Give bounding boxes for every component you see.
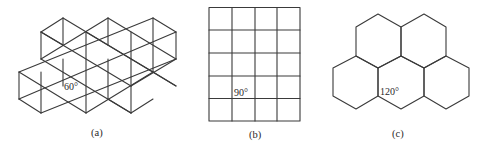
panel-a-triangular-tiling: 60° [19,18,176,113]
caption-c: (c) [392,128,404,140]
caption-a: (a) [91,127,103,139]
caption-b: (b) [249,129,262,141]
angle-label-120: 120° [380,86,399,97]
angle-label-90: 90° [234,87,248,98]
tessellation-figure: 60° (a) 90° (b) 120° (c) [0,0,480,150]
hexagon-bottom-right [424,56,469,109]
panel-b-square-grid: 90° [209,8,300,122]
hexagon-bottom-left [333,56,378,109]
panel-c-hexagonal-tiling: 120° [333,14,469,109]
hexagon-bottom-middle [378,56,424,109]
angle-label-60: 60° [64,81,78,92]
